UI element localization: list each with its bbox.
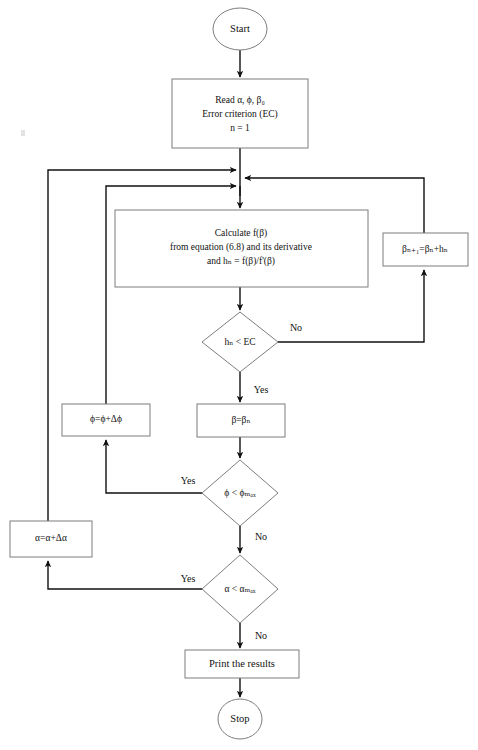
edge-label-alpha-yes: Yes — [181, 573, 196, 584]
edge-label-alpha-no: No — [255, 630, 267, 641]
read-inputs-line-3: n = 1 — [230, 123, 250, 133]
node-layer: Start Read α, ϕ, β₀ Error criterion (EC)… — [10, 8, 468, 739]
beta-assign-label: β=βₙ — [231, 415, 250, 425]
alpha-increment-label: α=α+Δα — [35, 533, 67, 543]
alpha-max-label: α < αₘₐₓ — [224, 584, 255, 594]
stop-terminator-label: Stop — [230, 713, 249, 724]
edge-label-hn-no: No — [290, 322, 302, 333]
beta-update-label: βₙ₊₁=βₙ+hₙ — [402, 244, 448, 254]
phi-max-label: ϕ < ϕₘₐₓ — [224, 488, 256, 498]
calculate-line-1: Calculate f(β) — [215, 228, 268, 239]
edge-label-phi-no: No — [255, 531, 267, 542]
read-inputs-line-2: Error criterion (EC) — [202, 109, 277, 120]
phi-increment-label: ϕ=ϕ+Δϕ — [90, 414, 122, 424]
calculate-line-2: from equation (6.8) and its derivative — [170, 242, 312, 253]
edge-label-hn-yes: Yes — [254, 384, 269, 395]
start-terminator-label: Start — [230, 23, 250, 34]
edge-label-phi-yes: Yes — [181, 475, 196, 486]
print-results-label: Print the results — [209, 658, 275, 669]
edge-alpha-yes-to-alpha-increment — [48, 561, 202, 589]
flowchart-canvas: Start Read α, ϕ, β₀ Error criterion (EC)… — [0, 0, 478, 750]
calculate-line-3: and hₙ = f(β)/f'(β) — [207, 256, 275, 267]
error-criterion-label: hₙ < EC — [224, 337, 255, 347]
flowchart-page: Start Read α, ϕ, β₀ Error criterion (EC)… — [0, 0, 478, 750]
read-inputs-line-1: Read α, ϕ, β₀ — [215, 95, 265, 105]
